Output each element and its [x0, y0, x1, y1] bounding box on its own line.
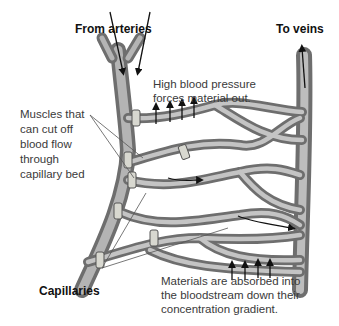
muscles-line-3: blood flow: [20, 137, 85, 152]
absorbed-line-1: Materials are absorbed into: [161, 274, 300, 288]
muscles-line-4: through: [20, 152, 85, 167]
absorbed-line-3: concentration gradient.: [161, 302, 300, 316]
muscles-line-1: Muscles that: [20, 107, 85, 122]
high-pressure-label: High blood pressure forces material out.: [153, 77, 256, 105]
high-pressure-line-2: forces material out.: [153, 91, 256, 105]
absorbed-label: Materials are absorbed into the bloodstr…: [161, 274, 300, 316]
absorbed-line-2: the bloodstream down their: [161, 288, 300, 302]
muscles-line-2: can cut off: [20, 122, 85, 137]
capillaries-label: Capillaries: [39, 284, 100, 298]
muscles-line-5: capillary bed: [20, 167, 85, 182]
capillary-bed-diagram: From arteries To veins High blood pressu…: [0, 0, 339, 326]
high-pressure-line-1: High blood pressure: [153, 77, 256, 91]
to-veins-label: To veins: [276, 22, 324, 36]
muscles-label: Muscles that can cut off blood flow thro…: [20, 107, 85, 182]
from-arteries-label: From arteries: [75, 22, 152, 36]
